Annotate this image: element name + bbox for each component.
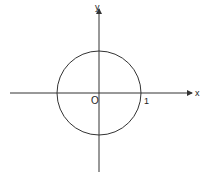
- x-axis-label: x: [195, 89, 200, 98]
- origin-label: O: [91, 96, 99, 106]
- radius-label: 1: [144, 97, 149, 106]
- y-axis-label: y: [95, 3, 100, 12]
- unit-circle-diagram: [0, 0, 212, 174]
